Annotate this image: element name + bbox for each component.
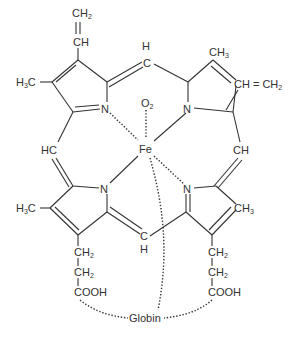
label-vinyl-ch-top-left: CH <box>73 36 89 48</box>
label-ch2-right-1: CH2 <box>208 246 228 259</box>
label-methine-h-bottom: H <box>140 243 148 255</box>
label-methyl-bottom-right: CH3 <box>234 202 254 215</box>
label-methyl-top-left: H3C <box>16 76 36 89</box>
label-ch2-right-2: CH2 <box>208 266 228 279</box>
pyrrole-ring-bottom-left <box>40 186 107 246</box>
label-cooh-right: COOH <box>208 286 241 298</box>
label-methine-c-top: C <box>143 57 151 69</box>
label-vinyl-ch2-top-left: CH2 <box>72 7 92 20</box>
pyrrole-ring-top-right <box>188 60 238 112</box>
structure-svg: CH2 CH H3C N H C CH3 CH = CH2 N O2 Fe HC… <box>0 0 303 342</box>
label-nitrogen-top-right: N <box>183 103 191 115</box>
pyrrole-ring-bottom-right <box>186 186 236 246</box>
label-methine-c-bottom: C <box>140 230 148 242</box>
label-ch2-left-1: CH2 <box>74 246 94 259</box>
label-vinyl-top-right: CH = CH2 <box>234 78 282 91</box>
label-methine-right: CH <box>233 144 249 156</box>
label-cooh-left: COOH <box>74 286 107 298</box>
label-nitrogen-bottom-left: N <box>100 183 108 195</box>
label-methyl-top-right: CH3 <box>209 46 229 59</box>
label-iron: Fe <box>139 143 152 155</box>
label-methine-left: HC <box>41 144 57 156</box>
label-globin: Globin <box>129 312 161 324</box>
label-nitrogen-top-left: N <box>101 103 109 115</box>
label-methyl-bottom-left: H3C <box>16 202 36 215</box>
label-ch2-left-2: CH2 <box>74 266 94 279</box>
heme-structure-diagram: CH2 CH H3C N H C CH3 CH = CH2 N O2 Fe HC… <box>0 0 303 342</box>
label-oxygen: O2 <box>141 97 154 110</box>
label-methine-h-top: H <box>142 40 150 52</box>
label-nitrogen-bottom-right: N <box>183 183 191 195</box>
